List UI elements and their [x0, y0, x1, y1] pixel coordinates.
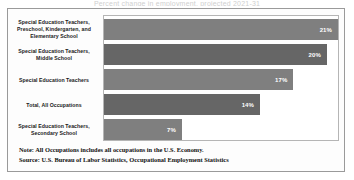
bar-value-label: 7% — [167, 127, 176, 133]
bar[interactable]: 21% — [104, 19, 338, 40]
bar-row: 21% — [104, 19, 338, 40]
bar-row: 17% — [104, 69, 338, 90]
category-label: Special Education Teachers, Preschool, K… — [11, 19, 97, 40]
bar-value-label: 21% — [320, 27, 332, 33]
cropped-chart-title: Percent change in employment, projected … — [0, 0, 354, 6]
bar-value-label: 20% — [309, 52, 321, 58]
bar-value-label: 17% — [275, 77, 287, 83]
chart-figure: Special Education Teachers, Preschool, K… — [7, 8, 345, 172]
bar-row: 14% — [104, 94, 338, 115]
category-label: Special Education Teachers, Secondary Sc… — [11, 123, 97, 137]
bar[interactable]: 17% — [104, 69, 293, 90]
bar-value-label: 14% — [242, 102, 254, 108]
footer-source: Source: U.S. Bureau of Labor Statistics,… — [19, 155, 335, 165]
category-label: Special Education Teachers, Middle Schoo… — [11, 48, 97, 62]
bar-row: 20% — [104, 44, 338, 65]
bar-row: 7% — [104, 119, 338, 140]
plot-area: 21% 20% 17% 14% 7% — [103, 15, 339, 141]
chart-footer: Note: All Occupations includes all occup… — [19, 145, 335, 164]
footer-note: Note: All Occupations includes all occup… — [19, 145, 335, 155]
bar[interactable]: 20% — [104, 44, 327, 65]
category-label: Total, All Occupations — [11, 102, 97, 109]
category-label: Special Education Teachers — [11, 77, 97, 84]
bar[interactable]: 7% — [104, 119, 182, 140]
bar[interactable]: 14% — [104, 94, 260, 115]
